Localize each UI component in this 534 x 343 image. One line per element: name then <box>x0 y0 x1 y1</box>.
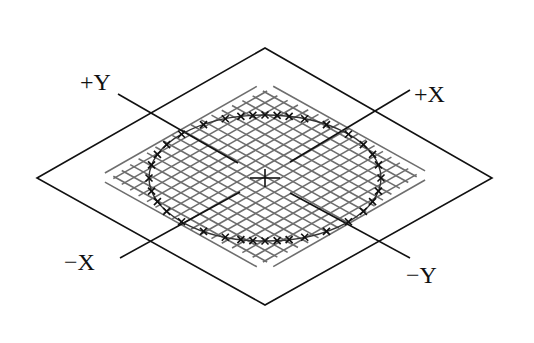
label-plus-y: +Y <box>80 69 111 95</box>
label-minus-x: −X <box>64 249 95 275</box>
coordinate-plane-diagram: +Y +X −X −Y <box>0 0 534 343</box>
label-plus-x: +X <box>414 81 445 107</box>
label-minus-y: −Y <box>406 262 437 288</box>
